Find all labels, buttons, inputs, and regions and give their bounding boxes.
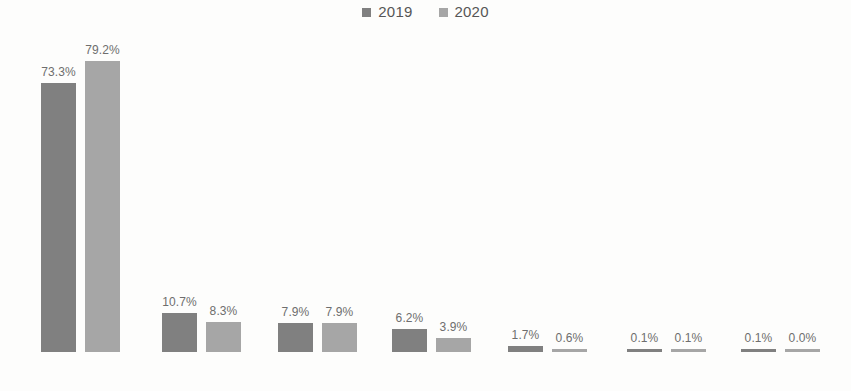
bar-value-label: 6.2% xyxy=(396,311,424,325)
bar-value-label: 79.2% xyxy=(85,43,120,57)
bar-2020[interactable] xyxy=(85,61,120,352)
bar-chart: 2019 2020 73.3%79.2%China10.7%8.3%ASEAN7… xyxy=(0,0,851,391)
bar-value-label: 0.1% xyxy=(675,331,703,345)
bar-2019[interactable] xyxy=(508,346,543,352)
bar-value-label: 7.9% xyxy=(282,305,310,319)
legend-item-2020[interactable]: 2020 xyxy=(439,4,489,19)
plot-area: 73.3%79.2%China10.7%8.3%ASEAN7.9%7.9%Uni… xyxy=(0,40,851,352)
bar-group: 10.7%8.3%ASEAN xyxy=(156,40,248,352)
bar-2020[interactable] xyxy=(436,338,471,352)
bar-group-bars: 6.2%3.9% xyxy=(386,40,478,352)
bar-2019[interactable] xyxy=(41,83,76,352)
chart-legend: 2019 2020 xyxy=(0,4,851,19)
bar-2019[interactable] xyxy=(392,329,427,352)
bar-value-label: 0.1% xyxy=(745,331,773,345)
bar-value-label: 8.3% xyxy=(210,304,238,318)
bar-group: 7.9%7.9%United States xyxy=(272,40,364,352)
legend-label-2019: 2019 xyxy=(378,4,412,19)
bar-2020[interactable] xyxy=(552,349,587,352)
bar-group: 73.3%79.2%China xyxy=(35,40,127,352)
bar-group: 0.1%0.1%India xyxy=(621,40,713,352)
bar-group-bars: 7.9%7.9% xyxy=(272,40,364,352)
bar-group-bars: 73.3%79.2% xyxy=(35,40,127,352)
bar-group-bars: 0.1%0.1% xyxy=(621,40,713,352)
legend-item-2019[interactable]: 2019 xyxy=(362,4,412,19)
bar-group-bars: 1.7%0.6% xyxy=(502,40,594,352)
bar-group-bars: 10.7%8.3% xyxy=(156,40,248,352)
bar-value-label: 0.1% xyxy=(631,331,659,345)
bar-2020[interactable] xyxy=(206,322,241,352)
bar-group: 6.2%3.9%Japan xyxy=(386,40,478,352)
bar-2020[interactable] xyxy=(671,349,706,352)
bar-group: 1.7%0.6%European Union xyxy=(502,40,594,352)
bar-2019[interactable] xyxy=(278,323,313,352)
legend-swatch-2019 xyxy=(362,8,371,17)
bar-value-label: 73.3% xyxy=(41,65,76,79)
bar-value-label: 7.9% xyxy=(326,305,354,319)
bar-group: 0.1%0.0%Russia xyxy=(735,40,827,352)
bar-value-label: 0.6% xyxy=(556,331,584,345)
bar-2020[interactable] xyxy=(785,349,820,352)
bar-value-label: 10.7% xyxy=(162,295,197,309)
bar-2019[interactable] xyxy=(627,349,662,352)
bar-value-label: 1.7% xyxy=(512,328,540,342)
bar-group-bars: 0.1%0.0% xyxy=(735,40,827,352)
legend-label-2020: 2020 xyxy=(455,4,489,19)
bar-2019[interactable] xyxy=(162,313,197,352)
bar-value-label: 0.0% xyxy=(789,331,817,345)
bar-value-label: 3.9% xyxy=(440,320,468,334)
bar-2020[interactable] xyxy=(322,323,357,352)
bar-2019[interactable] xyxy=(741,349,776,352)
legend-swatch-2020 xyxy=(439,8,448,17)
